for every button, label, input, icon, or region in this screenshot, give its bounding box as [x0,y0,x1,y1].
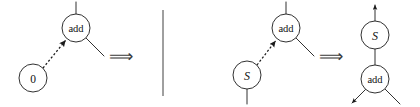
edge-right-argument [385,89,400,104]
rule-successor-rhs: S add [352,5,400,104]
edge-redirection-dashed-arrow [43,41,66,69]
node-add: add [361,65,389,93]
edge-left-argument-arrow [352,89,366,103]
node-label-add: add [367,74,383,85]
node-label-zero: 0 [30,73,36,85]
rewrite-arrow-2: ⟹ [319,47,343,66]
node-label-successor: S [244,69,250,83]
edge-redirection-dashed-arrow [257,41,276,65]
node-label-successor: S [372,29,378,43]
node-add: add [62,14,90,42]
rule-successor-lhs: add S [233,2,314,104]
edge-right-argument [296,38,314,56]
node-label-add: add [278,23,294,34]
node-successor: S [233,61,261,89]
node-zero: 0 [19,64,47,92]
figure-root: add 0 ⟹ add S [0,0,420,107]
node-successor: S [361,21,389,49]
node-label-add: add [68,23,84,34]
node-add: add [272,14,300,42]
rewrite-arrow-1: ⟹ [109,47,133,66]
rewrite-rules-diagram: add 0 ⟹ add S [0,0,420,107]
rule-zero-lhs: add 0 [19,2,104,92]
edge-right-argument [86,38,104,56]
